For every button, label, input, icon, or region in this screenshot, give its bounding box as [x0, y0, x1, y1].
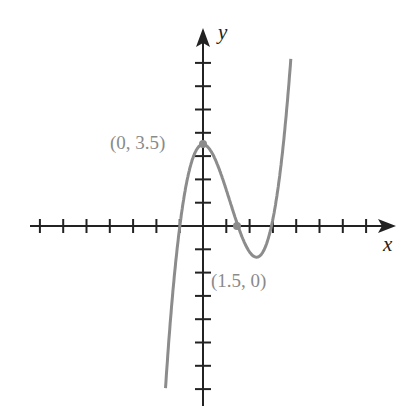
point-max — [199, 140, 207, 148]
point-label-root: (1.5, 0) — [211, 270, 266, 292]
x-axis-label: x — [383, 232, 392, 257]
graph-figure: y x (0, 3.5) (1.5, 0) — [0, 0, 418, 420]
cubic-curve — [166, 59, 291, 388]
y-axis-label: y — [218, 20, 227, 45]
plot-svg — [0, 0, 418, 420]
point-label-max: (0, 3.5) — [110, 132, 165, 154]
point-root — [233, 222, 241, 230]
